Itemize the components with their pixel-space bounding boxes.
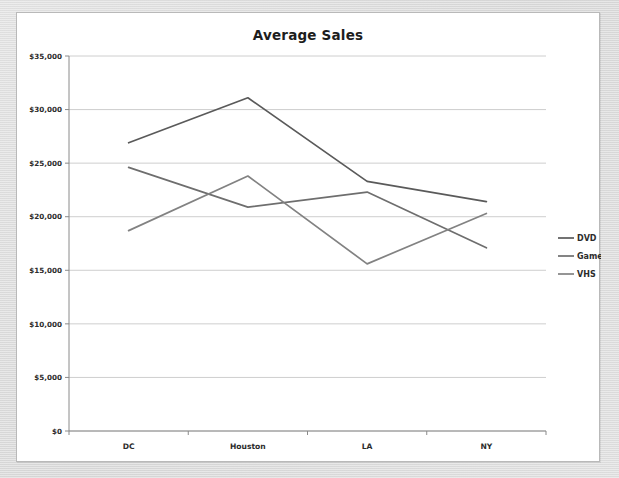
x-axis-tick-label: DC [123,442,135,451]
y-axis-tick-label: $10,000 [29,320,62,329]
y-axis-tick-label: $35,000 [29,52,62,61]
legend-label-vhs: VHS [577,270,596,279]
series-line-vhs [129,176,487,264]
x-axis-tick-labels: DCHoustonLANY [123,442,493,451]
legend-label-game: Game [577,252,601,261]
y-axis-tick-label: $25,000 [29,159,62,168]
x-axis-tick-label: NY [480,442,492,451]
y-axis-tick-label: $15,000 [29,266,62,275]
y-axis-tick-labels: $0$5,000$10,000$15,000$20,000$25,000$30,… [29,52,62,436]
legend-label-dvd: DVD [577,234,597,243]
x-axis-tick-label: LA [362,442,373,451]
gridlines-group [69,56,546,431]
chart-panel: Average Sales $0$5,000$10,000$15,000$20,… [16,12,600,462]
y-axis-tick-label: $0 [52,427,62,436]
y-axis-tick-label: $20,000 [29,212,62,221]
line-chart: $0$5,000$10,000$15,000$20,000$25,000$30,… [17,13,601,463]
axes-group [65,56,546,435]
y-axis-tick-label: $5,000 [34,373,62,382]
chart-legend: DVDGameVHS [558,234,601,279]
x-axis-tick-label: Houston [230,442,266,451]
y-axis-tick-label: $30,000 [29,105,62,114]
data-series-group [129,98,487,264]
